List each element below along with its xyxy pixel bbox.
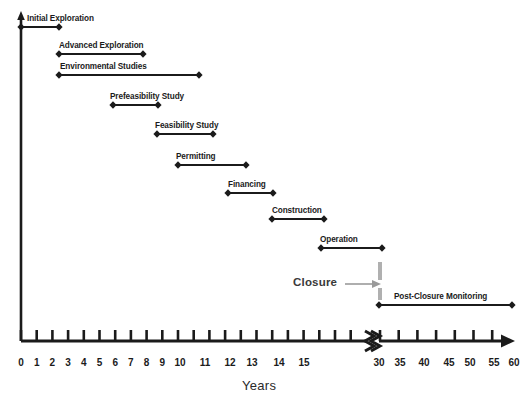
x-tick-label-7: 7	[128, 357, 134, 368]
x-tick-label-3: 3	[65, 357, 71, 368]
x-tick-label-9: 9	[160, 357, 166, 368]
x-tick-label-14: 14	[273, 357, 284, 368]
task-bar-environmental-studies[interactable]	[55, 71, 202, 79]
bar-label-construction: Construction	[272, 206, 322, 216]
task-bar-post-closure-monitoring[interactable]	[375, 301, 515, 309]
bar-label-operation: Operation	[320, 235, 358, 245]
task-bar-operation[interactable]	[317, 244, 385, 252]
x-tick-label-4: 4	[81, 357, 87, 368]
y-axis	[17, 11, 25, 341]
x-tick-label-40: 40	[418, 357, 429, 368]
x-tick-label-15: 15	[298, 357, 309, 368]
x-tick-label-50: 50	[464, 357, 475, 368]
task-marker-closure[interactable]	[345, 262, 382, 300]
axis-break-icon	[365, 331, 380, 351]
x-axis	[21, 335, 515, 348]
x-tick-label-6: 6	[112, 357, 118, 368]
bar-label-prefeasibility-study: Prefeasibility Study	[110, 92, 184, 102]
task-bar-advanced-exploration[interactable]	[55, 50, 146, 58]
x-tick-label-55: 55	[488, 357, 499, 368]
task-bar-initial-exploration[interactable]	[17, 23, 62, 31]
bar-label-environmental-studies: Environmental Studies	[60, 62, 147, 72]
x-tick-label-60: 60	[508, 357, 519, 368]
bar-label-advanced-exploration: Advanced Exploration	[59, 41, 143, 51]
task-bar-construction[interactable]	[268, 215, 327, 223]
x-tick-label-10: 10	[174, 357, 185, 368]
task-bar-financing[interactable]	[224, 189, 276, 197]
x-tick-label-11: 11	[200, 357, 211, 368]
x-tick-label-2: 2	[50, 357, 56, 368]
task-bar-feasibility-study[interactable]	[153, 130, 216, 138]
bar-label-permitting: Permitting	[176, 152, 216, 162]
x-tick-label-35: 35	[394, 357, 405, 368]
x-tick-label-12: 12	[224, 357, 235, 368]
x-tick-label-1: 1	[34, 357, 40, 368]
x-tick-label-13: 13	[246, 357, 257, 368]
x-tick-label-8: 8	[144, 357, 150, 368]
gantt-timeline-chart: Initial Exploration Advanced Exploration…	[0, 0, 528, 410]
closure-pointer-arrow	[345, 280, 381, 288]
x-tick-label-30: 30	[373, 357, 384, 368]
bar-label-closure: Closure	[293, 276, 337, 288]
task-bar-permitting[interactable]	[174, 161, 249, 169]
bar-label-financing: Financing	[228, 180, 266, 190]
x-tick-label-0: 0	[18, 357, 24, 368]
x-tick-label-5: 5	[97, 357, 103, 368]
bar-label-feasibility-study: Feasibility Study	[155, 121, 218, 131]
x-axis-ticks-right	[380, 330, 492, 341]
x-axis-title: Years	[242, 378, 276, 393]
task-bar-prefeasibility-study[interactable]	[109, 101, 161, 109]
bar-label-initial-exploration: Initial Exploration	[27, 14, 94, 24]
x-axis-ticks-left	[21, 330, 351, 341]
x-tick-label-45: 45	[443, 357, 454, 368]
bar-label-post-closure-monitoring: Post-Closure Monitoring	[394, 292, 487, 302]
